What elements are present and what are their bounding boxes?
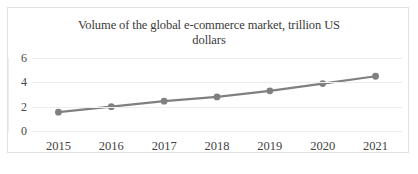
y-tick-label-0: 0 (9, 124, 27, 139)
gridline-0 (32, 131, 402, 132)
gridline-4 (32, 82, 402, 83)
x-axis-tick-labels: 2015201620172018201920202021 (32, 139, 402, 159)
x-tick-label-2019: 2019 (247, 139, 293, 154)
chart-title-line-2: dollars (192, 33, 225, 47)
data-point-2021 (372, 73, 379, 80)
y-axis-tick-labels: 0246 (8, 58, 27, 131)
x-tick-label-2018: 2018 (194, 139, 240, 154)
x-tick-label-2017: 2017 (141, 139, 187, 154)
data-point-2018 (214, 94, 221, 101)
y-tick-label-6: 6 (9, 51, 27, 66)
gridline-2 (32, 107, 402, 108)
x-tick-label-2021: 2021 (353, 139, 399, 154)
data-point-2015 (55, 109, 62, 116)
data-point-2017 (161, 98, 168, 105)
chart-frame: Volume of the global e-commerce market, … (7, 7, 409, 153)
page-artifact-text (10, 161, 210, 169)
x-tick-label-2020: 2020 (300, 139, 346, 154)
chart-title-line-1: Volume of the global e-commerce market, … (78, 18, 340, 32)
data-point-2020 (319, 80, 326, 87)
y-tick-label-4: 4 (9, 75, 27, 90)
plot-area (32, 58, 402, 131)
x-tick-label-2015: 2015 (35, 139, 81, 154)
series-line-chart (32, 58, 402, 131)
data-point-2019 (266, 87, 273, 94)
gridline-6 (32, 58, 402, 59)
x-tick-label-2016: 2016 (88, 139, 134, 154)
chart-title: Volume of the global e-commerce market, … (42, 18, 376, 48)
y-tick-label-2: 2 (9, 99, 27, 114)
